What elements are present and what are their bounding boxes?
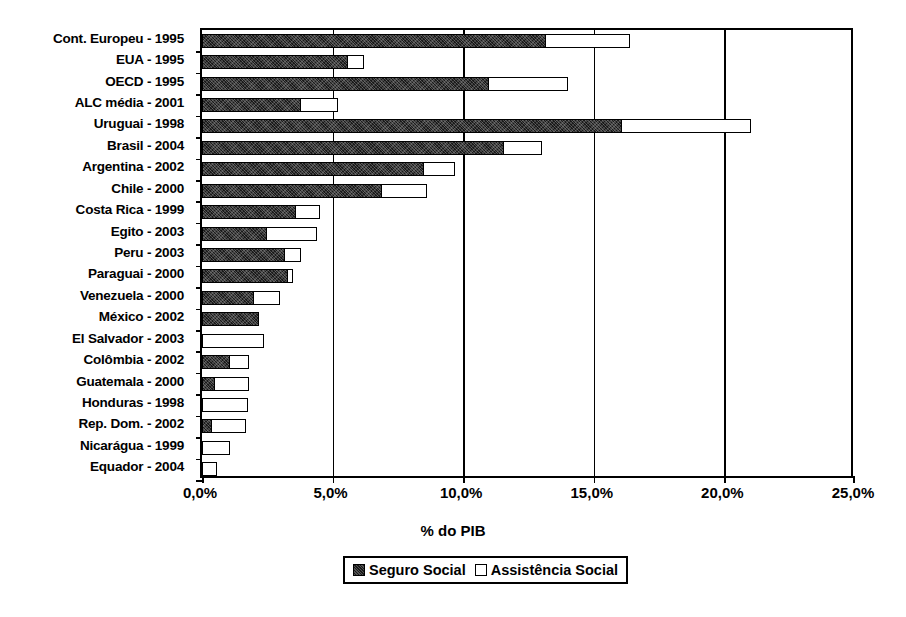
x-tick-label: 5,0% — [313, 484, 347, 501]
bar-row — [202, 184, 427, 198]
legend-label: Seguro Social — [369, 562, 466, 578]
category-label: Costa Rica - 1999 — [76, 203, 184, 217]
bar-segment-assistencia-social — [202, 334, 264, 348]
bar-row — [202, 162, 455, 176]
bar-row — [202, 77, 568, 91]
category-label: Egito - 2003 — [111, 225, 184, 239]
category-tick-mark — [196, 459, 202, 461]
category-label: Argentina - 2002 — [82, 160, 184, 174]
filled-black-swatch — [353, 564, 365, 576]
bar-row — [202, 55, 364, 69]
category-label: Cont. Europeu - 1995 — [53, 32, 184, 46]
bar-segment-assistencia-social — [202, 398, 248, 412]
bar-segment-seguro-social — [202, 34, 547, 48]
chart-legend: Seguro SocialAssistência Social — [343, 556, 628, 584]
bar-segment-seguro-social — [202, 227, 267, 241]
category-tick-mark — [196, 394, 202, 396]
bar-segment-seguro-social — [202, 291, 254, 305]
bar-segment-assistencia-social — [214, 377, 249, 391]
x-tick-mark — [724, 476, 726, 483]
bar-row — [202, 98, 338, 112]
category-tick-mark — [196, 223, 202, 225]
bar-row — [202, 119, 751, 133]
bar-row — [202, 34, 630, 48]
category-label: Paraguai - 2000 — [88, 267, 184, 281]
bar-segment-assistencia-social — [503, 141, 541, 155]
category-label: Equador - 2004 — [90, 460, 184, 474]
x-tick-label: 25,0% — [832, 484, 875, 501]
bar-row — [202, 227, 317, 241]
empty-white-swatch — [475, 564, 487, 576]
category-tick-mark — [196, 116, 202, 118]
bar-segment-assistencia-social — [253, 291, 281, 305]
bar-segment-seguro-social — [202, 77, 489, 91]
category-label: Chile - 2000 — [111, 182, 184, 196]
gridline-100 — [463, 30, 465, 476]
bar-row — [202, 398, 248, 412]
category-label: Uruguai - 1998 — [94, 117, 184, 131]
category-tick-mark — [196, 330, 202, 332]
bar-segment-assistencia-social — [347, 55, 364, 69]
x-tick-label: 15,0% — [571, 484, 614, 501]
category-tick-mark — [196, 94, 202, 96]
bar-row — [202, 141, 542, 155]
bar-segment-assistencia-social — [545, 34, 630, 48]
category-label: México - 2002 — [99, 310, 184, 324]
bar-segment-assistencia-social — [229, 355, 249, 369]
x-tick-label: 10,0% — [440, 484, 483, 501]
bar-segment-seguro-social — [202, 119, 623, 133]
bar-row — [202, 312, 259, 326]
bar-row — [202, 205, 320, 219]
x-axis-tick-labels: 0,0%5,0%10,0%15,0%20,0%25,0% — [0, 484, 906, 506]
category-tick-mark — [196, 244, 202, 246]
category-label: OECD - 1995 — [105, 75, 184, 89]
x-tick-mark — [463, 476, 465, 483]
bar-row — [202, 291, 280, 305]
bar-segment-assistencia-social — [295, 205, 320, 219]
bar-segment-assistencia-social — [202, 462, 217, 476]
x-tick-mark — [594, 476, 596, 483]
category-tick-mark — [196, 373, 202, 375]
gridline-50 — [333, 30, 335, 476]
bar-segment-seguro-social — [202, 162, 424, 176]
x-tick-label: 0,0% — [183, 484, 217, 501]
plot-area — [200, 28, 853, 478]
category-tick-mark — [196, 437, 202, 439]
x-tick-mark — [853, 476, 855, 483]
bar-segment-assistencia-social — [211, 419, 246, 433]
bar-segment-assistencia-social — [423, 162, 456, 176]
category-label: Rep. Dom. - 2002 — [78, 417, 184, 431]
category-label: Venezuela - 2000 — [80, 289, 184, 303]
bar-row — [202, 377, 249, 391]
x-tick-mark — [202, 476, 204, 483]
gridline-150 — [594, 30, 596, 476]
bar-segment-seguro-social — [202, 205, 296, 219]
category-tick-mark — [196, 137, 202, 139]
category-axis: Cont. Europeu - 1995EUA - 1995OECD - 199… — [0, 28, 192, 478]
bar-chart: Cont. Europeu - 1995EUA - 1995OECD - 199… — [0, 0, 906, 617]
bar-row — [202, 334, 264, 348]
bar-segment-seguro-social — [202, 248, 286, 262]
bar-segment-seguro-social — [202, 55, 348, 69]
bar-segment-assistencia-social — [300, 98, 338, 112]
category-tick-mark — [196, 73, 202, 75]
bar-segment-assistencia-social — [284, 248, 301, 262]
category-label: Honduras - 1998 — [82, 396, 184, 410]
category-tick-mark — [196, 180, 202, 182]
category-tick-mark — [196, 416, 202, 418]
bar-segment-assistencia-social — [202, 441, 230, 455]
bar-row — [202, 355, 249, 369]
category-tick-mark — [196, 266, 202, 268]
bar-segment-assistencia-social — [381, 184, 427, 198]
category-label: Nicarágua - 1999 — [80, 439, 184, 453]
category-tick-mark — [196, 351, 202, 353]
bar-segment-seguro-social — [202, 355, 231, 369]
bar-segment-assistencia-social — [266, 227, 317, 241]
bar-row — [202, 269, 293, 283]
legend-item: Assistência Social — [475, 562, 618, 578]
category-tick-mark — [196, 51, 202, 53]
bar-segment-assistencia-social — [287, 269, 294, 283]
bar-segment-assistencia-social — [488, 77, 568, 91]
legend-label: Assistência Social — [491, 562, 618, 578]
bar-segment-seguro-social — [202, 141, 505, 155]
